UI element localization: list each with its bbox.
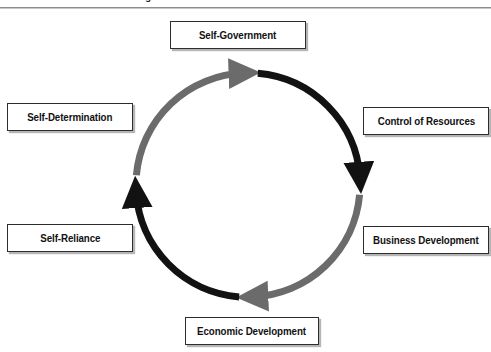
node-box-self-reliance[interactable]: Self-Reliance	[7, 224, 133, 252]
node-label-self-reliance: Self-Reliance	[40, 232, 100, 244]
figure-page: Figure 12-1The Aboriginal Development Ci…	[0, 0, 491, 352]
node-label-economic-development: Economic Development	[198, 325, 307, 337]
node-label-control-resources: Control of Resources	[377, 115, 474, 127]
node-label-business-development: Business Development	[373, 234, 479, 246]
cycle-diagram	[0, 0, 491, 352]
arc-top-to-right	[258, 73, 360, 177]
node-box-control-resources[interactable]: Control of Resources	[363, 107, 489, 135]
node-box-economic-development[interactable]: Economic Development	[185, 317, 319, 345]
node-label-self-government: Self-Government	[199, 29, 276, 41]
node-box-self-government[interactable]: Self-Government	[170, 21, 306, 49]
arc-right-to-bottom	[253, 195, 360, 297]
node-box-self-determination[interactable]: Self-Determination	[7, 103, 133, 131]
arc-bottom-to-left	[136, 193, 239, 297]
node-label-self-determination: Self-Determination	[27, 111, 112, 123]
node-box-business-development[interactable]: Business Development	[363, 226, 489, 254]
arc-left-to-top	[136, 73, 244, 175]
